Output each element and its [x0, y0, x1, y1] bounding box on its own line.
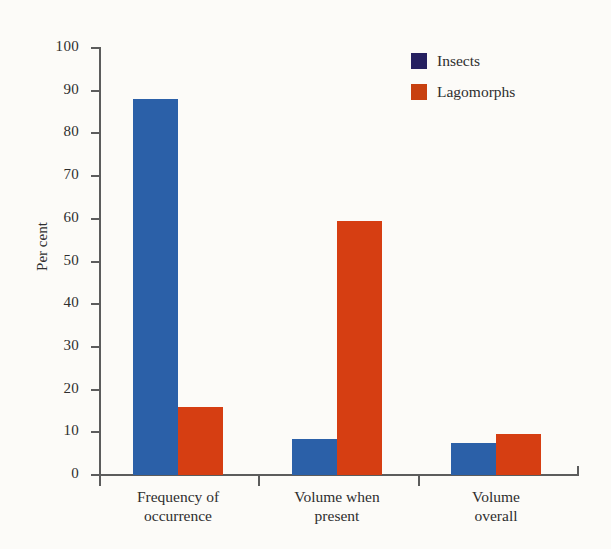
y-axis-tick-label: 10	[19, 422, 79, 439]
y-axis-tick-label: 40	[19, 294, 79, 311]
y-axis-tick	[91, 346, 100, 348]
y-axis-tick-label: 60	[19, 209, 79, 226]
bar	[451, 443, 496, 475]
x-axis-separator	[258, 476, 260, 486]
legend-item-lagomorphs[interactable]: Lagomorphs	[411, 83, 515, 101]
y-axis-tick	[91, 47, 100, 49]
y-axis-tick-label: 70	[19, 166, 79, 183]
y-axis-tick	[91, 303, 100, 305]
y-axis-tick	[91, 431, 100, 433]
y-axis-tick-label: 80	[19, 123, 79, 140]
legend-label-insects: Insects	[437, 52, 480, 70]
bar	[133, 99, 178, 475]
legend-item-insects[interactable]: Insects	[411, 52, 515, 70]
bar	[337, 221, 382, 475]
x-axis-category-label: Frequency ofoccurrence	[88, 487, 268, 526]
y-axis-tick	[91, 389, 100, 391]
x-axis-category-label-line: Volume when	[247, 487, 427, 506]
legend-label-lagomorphs: Lagomorphs	[437, 83, 515, 101]
y-axis-tick	[91, 261, 100, 263]
legend: Insects Lagomorphs	[411, 52, 515, 114]
y-axis-tick	[91, 218, 100, 220]
x-axis-category-label-line: Frequency of	[88, 487, 268, 506]
legend-swatch-insects	[411, 53, 427, 69]
x-axis-category-label-line: Volume	[406, 487, 586, 506]
x-axis-separator	[418, 476, 420, 486]
y-axis-tick-label: 30	[19, 337, 79, 354]
x-axis-category-label-line: present	[247, 506, 427, 525]
x-axis-separator	[99, 476, 101, 486]
x-axis-category-label-line: overall	[406, 506, 586, 525]
y-axis-tick-label: 20	[19, 380, 79, 397]
y-axis-tick-label: 50	[19, 252, 79, 269]
x-axis-category-label: Volume whenpresent	[247, 487, 427, 526]
y-axis-tick	[91, 90, 100, 92]
y-axis-tick-label: 100	[19, 38, 79, 55]
bar-chart: Per cent 0102030405060708090100 Frequenc…	[0, 0, 611, 549]
legend-swatch-lagomorphs	[411, 84, 427, 100]
bar	[292, 439, 337, 475]
bar	[178, 407, 223, 475]
y-axis-tick-label: 90	[19, 81, 79, 98]
bar	[496, 434, 541, 475]
x-axis-category-label-line: occurrence	[88, 506, 268, 525]
x-axis-category-label: Volumeoverall	[406, 487, 586, 526]
y-axis-tick	[91, 175, 100, 177]
y-axis-tick-label: 0	[19, 465, 79, 482]
y-axis-tick	[91, 132, 100, 134]
